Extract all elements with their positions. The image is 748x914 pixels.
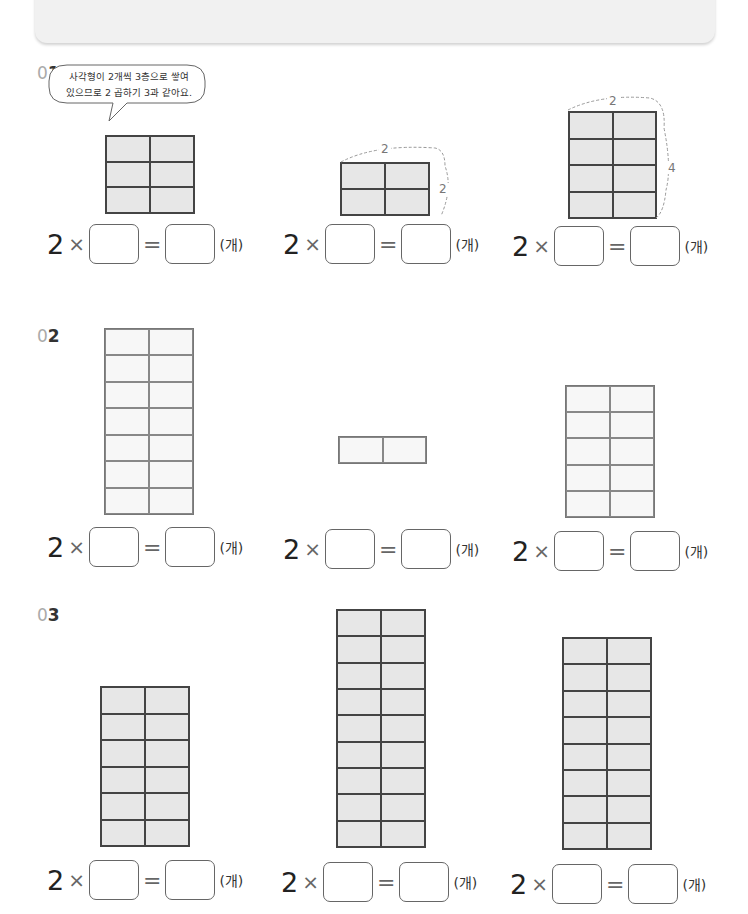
answer-box-product[interactable] <box>630 226 680 266</box>
equals-sign: = <box>143 535 161 560</box>
equals-sign: = <box>143 232 161 257</box>
unit-label: (개) <box>684 236 708 256</box>
answer-box-factor[interactable] <box>89 224 139 264</box>
multiplier: 2 <box>283 229 300 260</box>
multiplier: 2 <box>512 231 529 262</box>
side-dimension-label: 2 <box>437 183 449 195</box>
answer-box-product[interactable] <box>401 529 451 569</box>
unit-label: (개) <box>455 234 479 254</box>
answer-box-factor[interactable] <box>325 529 375 569</box>
section-label-number: 3 <box>48 605 60 625</box>
hint-line-1: 사각형이 2개씩 3층으로 쌓여 <box>55 69 203 85</box>
header-card <box>35 0 715 43</box>
equals-sign: = <box>377 870 395 895</box>
answer-box-product[interactable] <box>165 527 215 567</box>
equals-sign: = <box>608 234 626 259</box>
multiplier: 2 <box>47 229 64 260</box>
answer-box-product[interactable] <box>628 864 678 904</box>
equation-01-a: 2 × = (개) <box>47 222 243 266</box>
times-sign: × <box>533 539 550 563</box>
times-sign: × <box>68 868 85 892</box>
answer-box-factor[interactable] <box>554 226 604 266</box>
rectangle-grid-02-a <box>104 328 194 515</box>
section-label-prefix: 0 <box>37 605 48 625</box>
equation-02-b: 2 × = (개) <box>283 527 479 571</box>
times-sign: × <box>304 232 321 256</box>
answer-box-factor[interactable] <box>325 224 375 264</box>
section-label-number: 2 <box>48 326 60 346</box>
equals-sign: = <box>606 872 624 897</box>
equation-02-a: 2 × = (개) <box>47 525 243 569</box>
dimension-bracket-icon <box>335 140 455 220</box>
rectangle-grid-01-a <box>105 135 195 214</box>
unit-label: (개) <box>455 539 479 559</box>
unit-label: (개) <box>453 872 477 892</box>
rectangle-grid-03-b <box>336 609 426 848</box>
equation-03-c: 2 × = (개) <box>510 862 706 906</box>
unit-label: (개) <box>219 870 243 890</box>
unit-label: (개) <box>219 234 243 254</box>
equation-02-c: 2 × = (개) <box>512 529 708 573</box>
section-label-02: 02 <box>37 326 60 346</box>
answer-box-product[interactable] <box>165 860 215 900</box>
multiplier: 2 <box>512 536 529 567</box>
answer-box-factor[interactable] <box>89 860 139 900</box>
multiplier: 2 <box>47 532 64 563</box>
rectangle-grid-03-c <box>562 637 652 850</box>
multiplier: 2 <box>47 865 64 896</box>
equation-01-c: 2 × = (개) <box>512 224 708 268</box>
unit-label: (개) <box>219 537 243 557</box>
times-sign: × <box>304 537 321 561</box>
answer-box-factor[interactable] <box>554 531 604 571</box>
section-label-prefix: 0 <box>37 326 48 346</box>
equals-sign: = <box>143 868 161 893</box>
times-sign: × <box>68 232 85 256</box>
unit-label: (개) <box>684 541 708 561</box>
answer-box-product[interactable] <box>165 224 215 264</box>
equation-01-b: 2 × = (개) <box>283 222 479 266</box>
equals-sign: = <box>608 539 626 564</box>
times-sign: × <box>533 234 550 258</box>
answer-box-product[interactable] <box>401 224 451 264</box>
dimension-bracket-icon <box>560 92 680 222</box>
hint-line-2: 있으므로 2 곱하기 3과 같아요. <box>55 85 203 101</box>
times-sign: × <box>531 872 548 896</box>
rectangle-grid-02-b <box>338 436 427 464</box>
side-dimension-label: 4 <box>666 162 678 174</box>
rectangle-grid-03-a <box>100 686 190 847</box>
answer-box-factor[interactable] <box>323 862 373 902</box>
multiplier: 2 <box>283 534 300 565</box>
times-sign: × <box>68 535 85 559</box>
equals-sign: = <box>379 232 397 257</box>
unit-label: (개) <box>682 874 706 894</box>
top-dimension-label: 2 <box>607 95 619 107</box>
answer-box-product[interactable] <box>399 862 449 902</box>
answer-box-factor[interactable] <box>89 527 139 567</box>
hint-text: 사각형이 2개씩 3층으로 쌓여 있으므로 2 곱하기 3과 같아요. <box>55 69 203 101</box>
top-dimension-label: 2 <box>379 143 391 155</box>
equation-03-b: 2 × = (개) <box>281 860 477 904</box>
times-sign: × <box>302 870 319 894</box>
rectangle-grid-02-c <box>565 385 655 518</box>
answer-box-factor[interactable] <box>552 864 602 904</box>
answer-box-product[interactable] <box>630 531 680 571</box>
equals-sign: = <box>379 537 397 562</box>
equation-03-a: 2 × = (개) <box>47 858 243 902</box>
multiplier: 2 <box>281 867 298 898</box>
section-label-03: 03 <box>37 605 60 625</box>
multiplier: 2 <box>510 869 527 900</box>
